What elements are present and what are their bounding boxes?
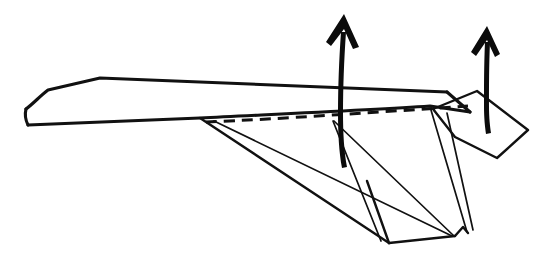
origami-fold-diagram — [0, 0, 553, 277]
figure-background — [0, 0, 553, 277]
figure-canvas — [0, 0, 553, 277]
